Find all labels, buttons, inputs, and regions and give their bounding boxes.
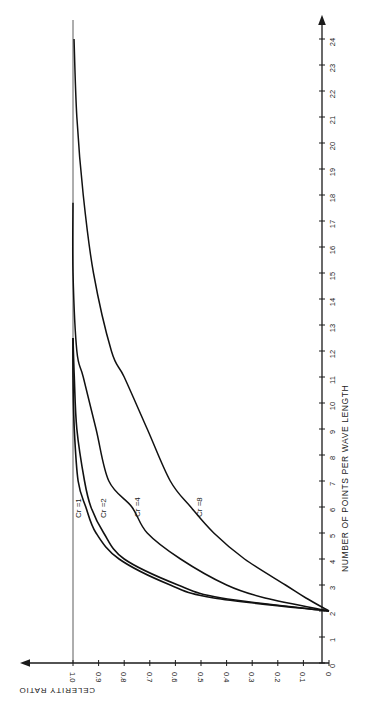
x-tick-label: 3 xyxy=(328,586,337,590)
y-tick-label: 0.3 xyxy=(247,672,256,682)
y-tick-label: 1.0 xyxy=(68,672,77,682)
celerity-ratio-chart: 0123456789101112131415161718192021222324… xyxy=(0,0,367,715)
x-tick-label: 10 xyxy=(328,402,337,410)
x-tick-label: 7 xyxy=(328,482,337,486)
x-tick-label: 22 xyxy=(328,90,337,98)
label-cr4: Cr =4 xyxy=(133,497,142,517)
y-tick-label: 0.7 xyxy=(145,672,154,682)
curve-cr8 xyxy=(74,39,329,611)
x-tick-label: 17 xyxy=(328,220,337,228)
x-tick-label: 24 xyxy=(328,38,337,46)
x-tick-label: 14 xyxy=(328,298,337,306)
y-tick-label: 0.8 xyxy=(119,672,128,682)
x-tick-label: 15 xyxy=(328,272,337,280)
x-tick-label: 1 xyxy=(328,638,337,642)
x-tick-label: 23 xyxy=(328,64,337,72)
curve-cr4 xyxy=(73,203,329,611)
y-tick-label: 0.4 xyxy=(222,672,231,682)
x-tick-label: 9 xyxy=(328,430,337,434)
curve-cr2 xyxy=(73,338,329,611)
y-tick-label: 0.6 xyxy=(170,672,179,682)
x-tick-label: 19 xyxy=(328,168,337,176)
x-tick-label: 12 xyxy=(328,350,337,358)
x-tick-label: 20 xyxy=(328,142,337,150)
x-tick-label: 5 xyxy=(328,534,337,538)
x-tick-label: 21 xyxy=(328,116,337,124)
x-tick-label: 4 xyxy=(328,560,337,564)
x-tick-label: 8 xyxy=(328,456,337,460)
y-tick-label: 0.9 xyxy=(94,672,103,682)
x-axis-title: NUMBER OF POINTS PER WAVE LENGTH xyxy=(340,385,350,572)
x-tick-label: 2 xyxy=(328,612,337,616)
y-tick-label: 0 xyxy=(324,672,333,676)
curve-cr1 xyxy=(73,338,329,611)
label-cr8: Cr =8 xyxy=(195,497,204,517)
y-tick-label: 0.2 xyxy=(273,672,282,682)
y-tick-label: 0.1 xyxy=(298,672,307,682)
label-cr1: Cr =1 xyxy=(74,498,83,518)
x-tick-label: 16 xyxy=(328,246,337,254)
x-tick-label: 11 xyxy=(328,376,337,384)
y-tick-label: 0.5 xyxy=(196,672,205,682)
x-tick-label: 13 xyxy=(328,324,337,332)
y-axis-title: CELERITY RATIO xyxy=(19,686,95,695)
curves xyxy=(73,39,329,611)
x-tick-label: 6 xyxy=(328,508,337,512)
label-cr2: Cr =2 xyxy=(99,498,108,518)
x-tick-label: 18 xyxy=(328,194,337,202)
